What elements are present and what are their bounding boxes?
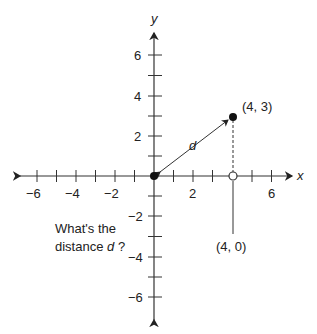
origin-point <box>150 172 158 180</box>
y-tick-label: 6 <box>134 49 141 62</box>
question-line-1: What's the <box>55 222 116 235</box>
distance-label: d <box>189 139 196 152</box>
point-4-3-label: (4, 3) <box>242 100 272 113</box>
x-tick-label: −6 <box>26 187 41 200</box>
x-tick-label: −4 <box>65 187 80 200</box>
y-axis-label: y <box>151 12 158 25</box>
x-tick-label: 6 <box>268 187 275 200</box>
x-tick-label: −2 <box>104 187 119 200</box>
y-tick-label: −6 <box>128 291 143 304</box>
question-text: distance <box>55 239 107 254</box>
point-4-0-label: (4, 0) <box>216 240 246 253</box>
point-4-3 <box>229 113 237 121</box>
question-mark: ? <box>114 239 125 254</box>
x-tick-label: 2 <box>189 187 196 200</box>
point-4-0 <box>229 172 237 180</box>
y-tick-label: 2 <box>134 130 141 143</box>
y-tick-label: −4 <box>128 251 143 264</box>
coordinate-plane <box>0 0 317 334</box>
x-axis-label: x <box>297 169 304 182</box>
question-line-2: distance d ? <box>55 240 125 253</box>
y-tick-label: −2 <box>128 210 143 223</box>
y-tick-label: 4 <box>134 90 141 103</box>
